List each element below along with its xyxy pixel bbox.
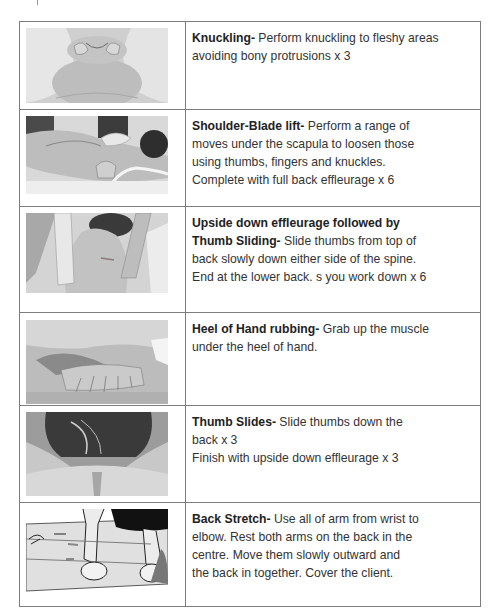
table-row: Thumb Slides- Slide thumbs down the back… bbox=[20, 406, 481, 503]
step-description: Thumb Slides- Slide thumbs down the back… bbox=[186, 406, 481, 503]
step-description: Upside down effleurage followed by Thumb… bbox=[186, 207, 481, 313]
image-cell bbox=[20, 406, 186, 503]
step-description: Back Stretch- Use all of arm from wrist … bbox=[186, 503, 481, 607]
table-row: Back Stretch- Use all of arm from wrist … bbox=[20, 503, 481, 607]
table-row: Heel of Hand rubbing- Grab up the muscle… bbox=[20, 313, 481, 406]
text-cursor-mark bbox=[37, 0, 38, 5]
thumb-slides-photo bbox=[26, 412, 168, 496]
step-title: Thumb Slides- bbox=[192, 415, 276, 429]
image-cell bbox=[20, 207, 186, 313]
back-stretch-illustration bbox=[26, 509, 168, 593]
step-title-2: Thumb Sliding- bbox=[192, 234, 281, 248]
image-cell bbox=[20, 22, 186, 110]
image-cell bbox=[20, 110, 186, 207]
heel-of-hand-photo bbox=[26, 320, 168, 404]
step-description: Knuckling- Perform knuckling to fleshy a… bbox=[186, 22, 481, 110]
step-description: Heel of Hand rubbing- Grab up the muscle… bbox=[186, 313, 481, 406]
step-title: Knuckling- bbox=[192, 31, 255, 45]
knuckling-photo bbox=[26, 28, 168, 103]
step-title: Back Stretch- bbox=[192, 512, 271, 526]
step-title: Shoulder-Blade lift- bbox=[192, 119, 304, 133]
step-description: Shoulder-Blade lift- Perform a range of … bbox=[186, 110, 481, 207]
image-cell bbox=[20, 313, 186, 406]
shoulder-blade-lift-photo bbox=[26, 116, 168, 194]
upside-down-effleurage-photo bbox=[26, 213, 168, 293]
table-row: Knuckling- Perform knuckling to fleshy a… bbox=[20, 22, 481, 110]
table-row: Shoulder-Blade lift- Perform a range of … bbox=[20, 110, 481, 207]
step-title: Heel of Hand rubbing- bbox=[192, 322, 319, 336]
step-title: Upside down effleurage followed by bbox=[192, 216, 400, 230]
image-cell bbox=[20, 503, 186, 607]
massage-steps-table: Knuckling- Perform knuckling to fleshy a… bbox=[19, 21, 481, 607]
table-row: Upside down effleurage followed by Thumb… bbox=[20, 207, 481, 313]
